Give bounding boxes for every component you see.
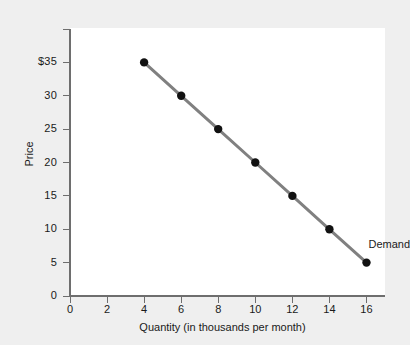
y-tick-mark [63, 95, 69, 96]
y-tick-label: 30 [44, 89, 57, 101]
x-tick-label: 8 [203, 303, 233, 315]
x-tick-label: 16 [351, 303, 381, 315]
y-tick-mark [63, 296, 69, 297]
x-tick-label: 2 [92, 303, 122, 315]
y-tick-mark [63, 29, 69, 30]
y-tick-label: 0 [51, 289, 57, 301]
x-tick-label: 0 [55, 303, 85, 315]
y-axis-title: Price [23, 124, 35, 184]
x-tick-label: 10 [240, 303, 270, 315]
y-tick-mark [63, 262, 69, 263]
y-tick-mark [63, 229, 69, 230]
x-axis-line [69, 295, 385, 297]
plot-area [70, 28, 385, 297]
y-tick-label: $35 [38, 55, 57, 67]
y-axis-line [69, 29, 71, 297]
demand-annotation-label: Demand [368, 238, 410, 250]
y-tick-mark [63, 195, 69, 196]
x-tick-label: 4 [129, 303, 159, 315]
x-tick-label: 6 [166, 303, 196, 315]
x-axis-title: Quantity (in thousands per month) [0, 321, 405, 333]
y-tick-mark [63, 129, 69, 130]
y-tick-label: 5 [51, 256, 57, 268]
x-tick-label: 14 [314, 303, 344, 315]
y-tick-label: 20 [44, 156, 57, 168]
y-tick-label: 25 [44, 122, 57, 134]
y-tick-label: 10 [44, 222, 57, 234]
y-tick-label: 15 [44, 189, 57, 201]
y-tick-mark [63, 62, 69, 63]
x-tick-label: 12 [277, 303, 307, 315]
y-tick-mark [63, 162, 69, 163]
